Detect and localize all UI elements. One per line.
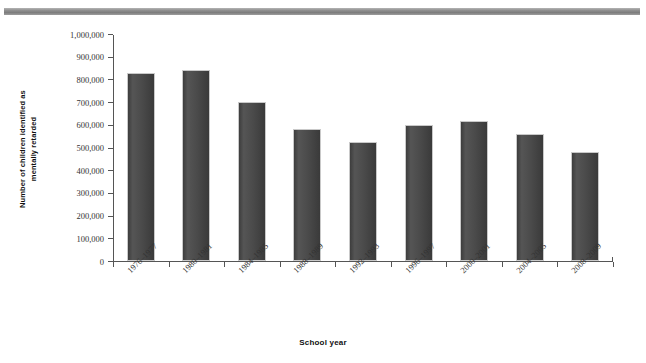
- y-axis-tick-label: 900,000: [76, 52, 104, 62]
- y-axis-tick: 600,000: [108, 125, 113, 126]
- x-axis-title: School year: [0, 338, 646, 347]
- x-axis-tick: [613, 262, 614, 267]
- y-axis-tick: 200,000: [108, 216, 113, 217]
- y-axis-tick: 800,000: [108, 79, 113, 80]
- y-axis-line: [113, 35, 114, 262]
- x-axis-tick: [224, 262, 225, 267]
- y-axis-tick: 400,000: [108, 170, 113, 171]
- x-axis-tick: [280, 262, 281, 267]
- y-axis-title-line-1: Number of children identified as: [18, 90, 27, 208]
- y-axis-tick: 700,000: [108, 102, 113, 103]
- y-axis-title-line-2: mentally retarded: [28, 90, 39, 208]
- x-axis-tick: [502, 262, 503, 267]
- y-axis-title: Number of children identified as mentall…: [8, 35, 48, 263]
- x-axis-tick: [557, 262, 558, 267]
- y-axis-tick-label: 400,000: [76, 166, 104, 176]
- y-axis-tick-label: 0: [100, 257, 104, 267]
- top-rule-divider: [4, 8, 640, 15]
- y-axis-tick-label: 700,000: [76, 98, 104, 108]
- y-axis-tick-label: 200,000: [76, 211, 104, 221]
- bar: [460, 121, 488, 261]
- x-axis-tick: [391, 262, 392, 267]
- bar: [238, 102, 266, 261]
- y-axis-tick: 100,000: [108, 238, 113, 239]
- y-axis-tick-label: 1,000,000: [70, 30, 104, 40]
- y-axis-tick: 1,000,000: [108, 34, 113, 35]
- y-axis-tick-label: 800,000: [76, 75, 104, 85]
- x-axis-tick: [446, 262, 447, 267]
- x-axis-tick: [335, 262, 336, 267]
- y-axis-tick-label: 100,000: [76, 234, 104, 244]
- y-axis-tick: 900,000: [108, 57, 113, 58]
- bar: [127, 73, 155, 261]
- plot-area: 0100,000200,000300,000400,000500,000600,…: [113, 35, 613, 262]
- y-axis-tick: 500,000: [108, 148, 113, 149]
- x-axis-tick: [113, 262, 114, 267]
- bar-chart-figure: Number of children identified as mentall…: [0, 0, 646, 363]
- y-axis-tick-label: 500,000: [76, 143, 104, 153]
- x-axis-tick: [169, 262, 170, 267]
- y-axis-tick-label: 300,000: [76, 188, 104, 198]
- bar: [182, 70, 210, 261]
- y-axis-tick-label: 600,000: [76, 120, 104, 130]
- y-axis-tick: 300,000: [108, 193, 113, 194]
